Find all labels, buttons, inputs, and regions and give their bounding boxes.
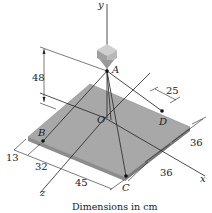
arrow bbox=[43, 97, 46, 102]
dim-label-25: 25 bbox=[166, 85, 179, 96]
dim-ext-B bbox=[28, 144, 40, 155]
dim-ext-left bbox=[14, 139, 26, 150]
dim-label-32: 32 bbox=[35, 161, 48, 172]
statics-diagram: y x z A B C D O 48 25 36 36 13 32 45 Dim… bbox=[0, 0, 212, 213]
dim-48-ext-bottom bbox=[40, 103, 56, 109]
dim-label-36-lower: 36 bbox=[160, 167, 173, 178]
point-label-O: O bbox=[97, 114, 105, 125]
point-label-B: B bbox=[37, 127, 45, 138]
axis-label-y: y bbox=[97, 0, 104, 10]
point-C bbox=[124, 174, 128, 178]
arrow bbox=[43, 49, 46, 54]
point-D bbox=[160, 109, 164, 113]
axis-label-z: z bbox=[39, 187, 46, 198]
dim-48-ext-top bbox=[40, 47, 107, 71]
point-label-A: A bbox=[111, 64, 119, 75]
point-label-C: C bbox=[122, 182, 130, 193]
axis-label-x: x bbox=[200, 173, 206, 184]
point-B bbox=[41, 139, 45, 143]
caption: Dimensions in cm bbox=[72, 201, 158, 212]
point-label-D: D bbox=[158, 116, 167, 127]
dim-label-48: 48 bbox=[32, 72, 45, 83]
dim-label-36-upper: 36 bbox=[190, 137, 203, 148]
dim-label-13: 13 bbox=[6, 152, 19, 163]
dim-25-ext-1 bbox=[150, 87, 158, 91]
dim-36-ext-1 bbox=[192, 117, 206, 124]
dim-label-45: 45 bbox=[75, 177, 88, 188]
